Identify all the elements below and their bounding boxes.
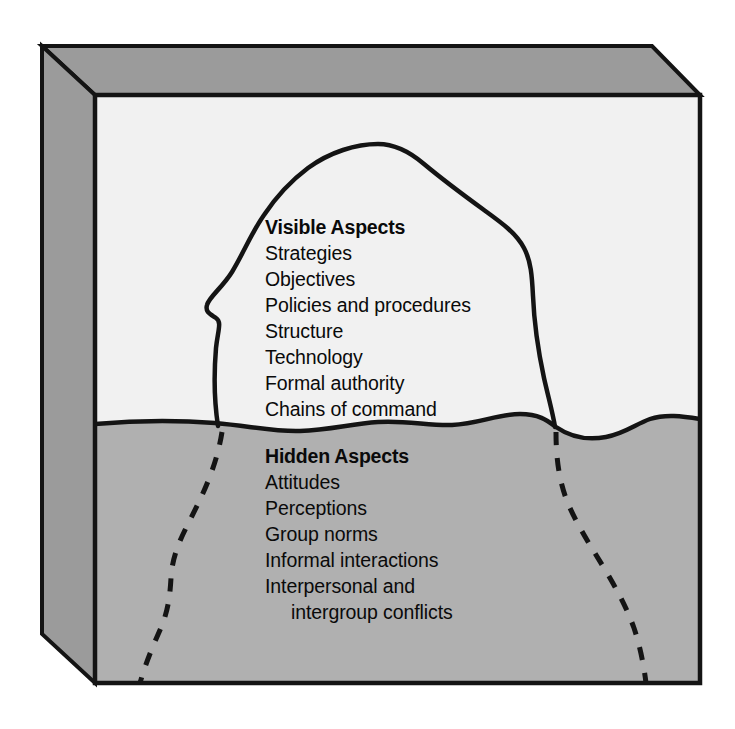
hidden-aspect-item-5: intergroup conflicts	[265, 599, 453, 625]
hidden-aspect-item-2: Group norms	[265, 521, 453, 547]
diagram-canvas: Visible Aspects Strategies Objectives Po…	[0, 0, 735, 729]
hidden-aspect-item-3: Informal interactions	[265, 547, 453, 573]
visible-aspects-label-group: Visible Aspects Strategies Objectives Po…	[265, 214, 471, 422]
visible-aspect-item-3: Structure	[265, 318, 471, 344]
box-left-face	[42, 46, 95, 683]
hidden-aspect-item-1: Perceptions	[265, 495, 453, 521]
visible-aspect-item-0: Strategies	[265, 240, 471, 266]
visible-aspect-item-4: Technology	[265, 344, 471, 370]
box-top-face	[42, 46, 700, 95]
visible-aspect-item-1: Objectives	[265, 266, 471, 292]
visible-aspect-item-6: Chains of command	[265, 396, 471, 422]
visible-aspects-heading: Visible Aspects	[265, 214, 471, 240]
hidden-aspect-item-0: Attitudes	[265, 469, 453, 495]
visible-aspect-item-2: Policies and procedures	[265, 292, 471, 318]
visible-aspect-item-5: Formal authority	[265, 370, 471, 396]
hidden-aspects-label-group: Hidden Aspects Attitudes Perceptions Gro…	[265, 443, 453, 625]
hidden-aspects-heading: Hidden Aspects	[265, 443, 453, 469]
hidden-aspect-item-4: Interpersonal and	[265, 573, 453, 599]
